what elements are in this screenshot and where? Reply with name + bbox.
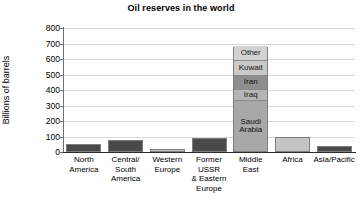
- bar-segment-label: Iran: [244, 78, 258, 87]
- bar[interactable]: [66, 144, 101, 152]
- bar-segment-label: Kuwait: [239, 64, 263, 73]
- bar-slot: Saudi ArabiaIraqIranKuwaitOther: [233, 28, 268, 152]
- y-axis-tick-label: 400: [26, 86, 60, 95]
- bar-segment-label: Other: [241, 49, 261, 58]
- bar-slot: [108, 28, 143, 152]
- oil-reserves-chart: Oil reserves in the world Billions of ba…: [0, 0, 362, 203]
- x-axis-category-label: Western Europe: [146, 155, 188, 174]
- bar-segment-label: Iraq: [244, 91, 258, 100]
- y-axis-tick-label: 600: [26, 55, 60, 64]
- y-axis-label: Billions of barrels: [1, 28, 13, 152]
- x-axis-category-label: North America: [63, 155, 105, 174]
- y-axis-tick-label: 700: [26, 40, 60, 49]
- x-axis-category-label: Asia/Pacific: [313, 155, 355, 165]
- x-axis-category-label: Former USSR & Eastern Europe: [188, 155, 230, 193]
- x-axis-line: [63, 152, 356, 153]
- x-axis-category-label: Central/ South America: [105, 155, 147, 184]
- bar-segment[interactable]: Saudi Arabia: [234, 101, 267, 151]
- bar-slot: [66, 28, 101, 152]
- bar-segment[interactable]: Iran: [234, 76, 267, 90]
- bar[interactable]: [317, 146, 352, 152]
- y-axis-tick-mark: [60, 152, 63, 153]
- y-axis-tick-label: 100: [26, 133, 60, 142]
- bar-slot: [150, 28, 185, 152]
- bar[interactable]: [192, 138, 227, 152]
- y-axis-tick-label: 500: [26, 71, 60, 80]
- y-axis-tick-label: 300: [26, 102, 60, 111]
- bar-slot: [317, 28, 352, 152]
- x-axis-category-label: Africa: [272, 155, 314, 165]
- y-axis-tick-label: 200: [26, 117, 60, 126]
- bar-segment[interactable]: Kuwait: [234, 61, 267, 76]
- x-axis-category-label: Middle East: [230, 155, 272, 174]
- bar-slot: [275, 28, 310, 152]
- y-axis-tick-label: 800: [26, 24, 60, 33]
- bar-series: Saudi ArabiaIraqIranKuwaitOther: [63, 28, 355, 152]
- y-axis-tick-label: 0: [26, 148, 60, 157]
- bar[interactable]: Saudi ArabiaIraqIranKuwaitOther: [233, 47, 268, 152]
- bar[interactable]: [150, 149, 185, 152]
- bar-segment[interactable]: Iraq: [234, 90, 267, 102]
- bar[interactable]: [108, 140, 143, 152]
- bar-segment-label: Saudi Arabia: [239, 118, 262, 135]
- chart-title: Oil reserves in the world: [0, 3, 362, 13]
- x-axis-category-labels: North AmericaCentral/ South AmericaWeste…: [63, 155, 355, 203]
- bar-slot: [192, 28, 227, 152]
- y-axis-tick-labels: 8007006005004003002001000: [22, 28, 60, 152]
- bar[interactable]: [275, 137, 310, 153]
- bar-segment[interactable]: Other: [234, 46, 267, 62]
